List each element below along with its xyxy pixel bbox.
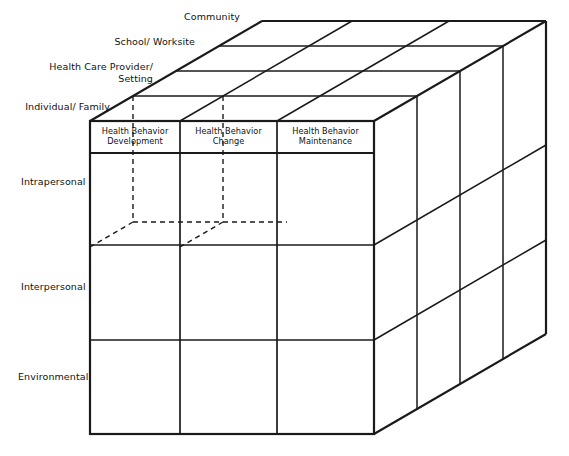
row-label-intrapersonal: Intrapersonal: [21, 176, 101, 188]
row-label-interpersonal: Interpersonal: [21, 281, 101, 293]
row-label-environmental: Environmental: [18, 371, 103, 383]
hidden-cell-dashed-diagonal-1: [90, 222, 133, 247]
hidden-cell-dashed-diagonal-2: [180, 222, 223, 247]
column-header-health-behavior-maintenance: Health Behavior Maintenance: [278, 126, 373, 146]
depth-label-school-worksite: School/ Worksite: [70, 36, 195, 48]
depth-label-community: Community: [130, 11, 240, 23]
column-header-health-behavior-development: Health Behavior Development: [91, 126, 179, 146]
column-header-health-behavior-change: Health Behavior Change: [181, 126, 276, 146]
diagram-canvas: Community School/ Worksite Health Care P…: [0, 0, 569, 456]
front-face-border: [90, 121, 374, 434]
depth-label-health-care-provider: Health Care Provider/ Setting: [18, 61, 153, 84]
depth-label-individual-family: Individual/ Family: [5, 101, 110, 113]
